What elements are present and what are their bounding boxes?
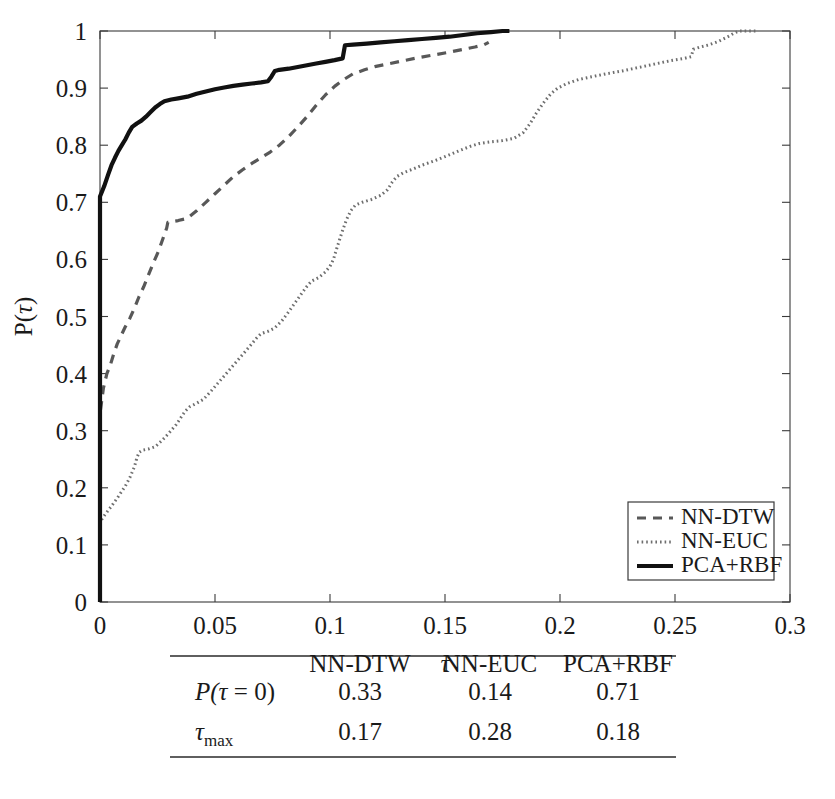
table-cell: 0.71 <box>596 678 640 705</box>
x-tick-label: 0.15 <box>423 612 467 639</box>
y-tick-label: 0.8 <box>56 132 87 159</box>
x-tick-label: 0.05 <box>193 612 237 639</box>
y-tick-label: 1 <box>75 18 88 45</box>
chart-canvas: 00.050.10.150.20.250.3 00.10.20.30.40.50… <box>0 0 835 799</box>
x-tick-label: 0.25 <box>653 612 697 639</box>
y-tick-label: 0.9 <box>56 75 87 102</box>
legend-label-nn-euc: NN-EUC <box>681 528 768 553</box>
summary-table: NN-DTWNN-EUCPCA+RBFP(τ = 0)0.330.140.71τ… <box>170 650 676 757</box>
table-cell: 0.17 <box>338 718 382 745</box>
chart-legend[interactable]: NN-DTWNN-EUCPCA+RBF <box>628 502 782 580</box>
y-tick-label: 0 <box>75 589 88 616</box>
table-cell: 0.14 <box>468 678 512 705</box>
table-column-header: NN-DTW <box>309 650 411 677</box>
table-row-label: P(τ = 0) <box>194 678 275 706</box>
y-tick-label: 0.2 <box>56 475 87 502</box>
series-line-nn-dtw <box>100 42 489 602</box>
y-tick-label: 0.4 <box>56 361 88 388</box>
x-tick-label: 0.3 <box>774 612 805 639</box>
table-column-header: NN-EUC <box>443 650 537 677</box>
table-cell: 0.28 <box>468 718 512 745</box>
table-column-header: PCA+RBF <box>563 650 673 677</box>
y-tick-label: 0.3 <box>56 418 87 445</box>
performance-profile-figure: 00.050.10.150.20.250.3 00.10.20.30.40.50… <box>0 0 835 799</box>
y-tick-label: 0.5 <box>56 304 87 331</box>
x-tick-label: 0.2 <box>544 612 575 639</box>
x-axis-tick-labels: 00.050.10.150.20.250.3 <box>94 612 806 639</box>
y-tick-label: 0.6 <box>56 246 87 273</box>
table-cell: 0.18 <box>596 718 640 745</box>
series-line-pca-rbf <box>100 31 509 602</box>
x-tick-label: 0 <box>94 612 107 639</box>
x-tick-label: 0.1 <box>314 612 345 639</box>
table-row-label: τmax <box>195 718 234 750</box>
legend-label-pca-rbf: PCA+RBF <box>681 552 782 577</box>
y-tick-label: 0.7 <box>56 189 87 216</box>
table-cell: 0.33 <box>338 678 382 705</box>
y-tick-label: 0.1 <box>56 532 87 559</box>
y-axis-title: P(τ) <box>10 297 38 337</box>
y-axis-tick-labels: 00.10.20.30.40.50.60.70.80.91 <box>56 18 88 616</box>
legend-label-nn-dtw: NN-DTW <box>681 504 775 529</box>
